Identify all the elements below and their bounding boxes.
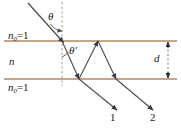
label-refractive-index-film: n xyxy=(9,56,15,67)
exit-ray-2 xyxy=(116,79,153,110)
label-refractive-index-top: n0=1 xyxy=(8,30,29,41)
thin-film-interference-diagram: n0=1 n n0=1 θ θ′ d 1 2 xyxy=(0,0,181,130)
label-refractive-index-bottom: n0=1 xyxy=(8,82,29,93)
label-ray-one: 1 xyxy=(110,112,116,123)
label-n-symbol-film: n xyxy=(9,55,15,67)
label-n-equals-bottom: =1 xyxy=(17,81,29,93)
incident-ray xyxy=(28,3,64,43)
internal-reflection-up xyxy=(79,41,98,79)
label-n-equals-top: =1 xyxy=(17,29,29,41)
label-angle-refraction: θ′ xyxy=(69,45,77,56)
internal-reflection-down xyxy=(98,41,116,79)
label-n-symbol-bottom: n xyxy=(8,81,14,93)
label-film-thickness: d xyxy=(154,53,160,64)
label-n-symbol-top: n xyxy=(8,29,14,41)
label-angle-incidence: θ xyxy=(48,11,53,22)
label-n-subscript-bottom: 0 xyxy=(14,87,17,94)
exit-ray-1 xyxy=(79,79,117,110)
label-n-subscript-top: 0 xyxy=(14,35,17,42)
label-ray-two: 2 xyxy=(150,112,156,123)
